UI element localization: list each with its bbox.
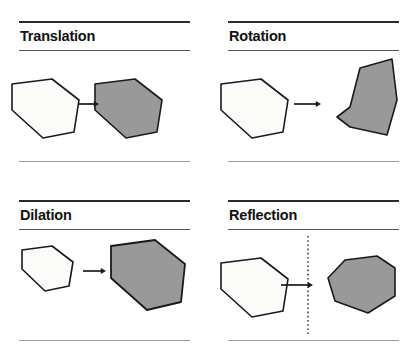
preimage-pentagon: [22, 246, 73, 291]
figure-dilation: [0, 234, 209, 339]
panel-bottom-rule: [228, 340, 399, 341]
panel-title-dilation: Dilation: [20, 206, 72, 225]
panel-title-underline: [19, 229, 190, 230]
panel-top-rule: [19, 21, 190, 23]
panel-title-rotation: Rotation: [229, 27, 286, 46]
preimage-pentagon: [221, 79, 288, 138]
transformation-arrow: [294, 101, 321, 107]
preimage-pentagon: [221, 258, 288, 317]
panel-top-rule: [228, 21, 399, 23]
figure-reflection: [209, 234, 418, 339]
figure-page: Translation Rotation: [0, 0, 418, 357]
figure-translation: [0, 55, 209, 160]
panel-top-rule: [19, 200, 190, 202]
preimage-pentagon: [12, 79, 79, 138]
transformation-arrow: [83, 268, 106, 274]
panel-top-rule: [228, 200, 399, 202]
panel-reflection: Reflection: [209, 179, 418, 357]
panel-rotation: Rotation: [209, 0, 418, 178]
image-pentagon: [111, 240, 185, 310]
panel-translation: Translation: [0, 0, 209, 178]
panel-dilation: Dilation: [0, 179, 209, 357]
panel-title-underline: [228, 50, 399, 51]
image-pentagon: [95, 79, 162, 138]
panel-title-underline: [19, 50, 190, 51]
image-pentagon: [328, 256, 395, 313]
panel-bottom-rule: [19, 340, 190, 341]
panel-title-reflection: Reflection: [229, 206, 297, 225]
panel-bottom-rule: [19, 161, 190, 162]
panel-title-translation: Translation: [20, 27, 95, 46]
panel-bottom-rule: [228, 161, 399, 162]
figure-rotation: [209, 55, 418, 160]
panel-title-underline: [228, 229, 399, 230]
image-pentagon: [337, 59, 397, 135]
